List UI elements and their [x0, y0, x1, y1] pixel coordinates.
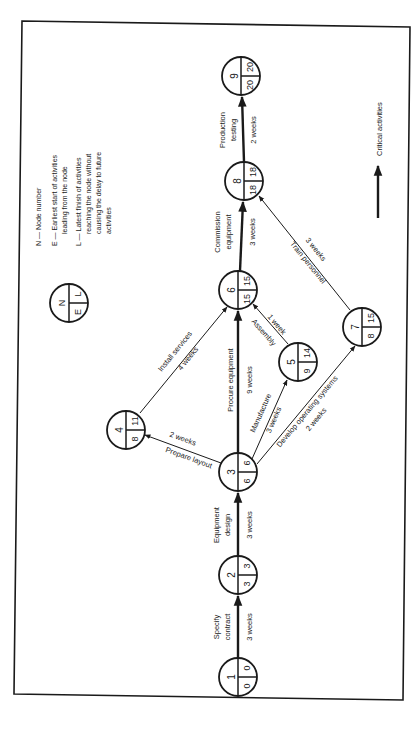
legend-line-6: causing the delay to future: [95, 152, 103, 234]
node-2-latest: 3: [242, 563, 252, 568]
node-9: 9 20 20: [222, 57, 260, 95]
figure-border: [14, 21, 410, 700]
label-production-testing-2: testing: [229, 119, 238, 141]
label-equipment-design-duration: 3 weeks: [245, 511, 254, 539]
label-procure-equipment-duration: 9 weeks: [245, 366, 254, 394]
node-9-earliest: 20: [245, 80, 255, 90]
node-1: 1 0 0: [219, 658, 257, 696]
node-8-latest: 18: [248, 167, 258, 177]
node-3-number: 3: [226, 469, 237, 475]
node-8-earliest: 18: [248, 185, 258, 195]
node-4-earliest: 8: [130, 436, 140, 441]
node-2-earliest: 3: [242, 581, 252, 586]
legend-symbol-e: E: [73, 309, 83, 315]
label-commission-equipment-1: Commission: [213, 211, 222, 252]
legend-line-2: E — Earliest start of activities: [51, 154, 58, 246]
node-9-latest: 20: [245, 62, 255, 72]
node-1-latest: 0: [242, 665, 252, 670]
node-7: 7 8 15: [343, 308, 381, 346]
node-3: 3 6 6: [219, 453, 257, 491]
legend-critical-label: Critical activities: [375, 102, 384, 156]
node-6-latest: 15: [242, 276, 252, 286]
node-7-latest: 15: [366, 313, 376, 323]
node-2: 2 3 3: [219, 556, 257, 594]
label-specify-contract-2: contract: [223, 613, 232, 641]
node-5-latest: 14: [302, 348, 312, 358]
label-commission-equipment-duration: 3 weeks: [248, 218, 257, 246]
legend-text: N — Node number E — Earliest start of ac…: [35, 152, 112, 246]
node-3-earliest: 6: [242, 478, 252, 483]
node-9-number: 9: [229, 73, 240, 79]
node-7-number: 7: [350, 324, 361, 330]
node-6-number: 6: [226, 287, 237, 293]
node-6-earliest: 15: [242, 294, 252, 304]
node-5-earliest: 9: [302, 368, 312, 373]
legend-node-symbol: N E L: [50, 284, 88, 322]
edge-8-9: [242, 97, 244, 162]
node-2-number: 2: [226, 572, 237, 578]
label-equipment-design-2: design: [223, 514, 232, 536]
label-procure-equipment: Procure equipment: [226, 347, 235, 411]
label-production-testing-duration: 2 weeks: [249, 116, 258, 144]
node-1-number: 1: [226, 674, 237, 680]
label-specify-contract-duration: 3 weeks: [245, 613, 254, 641]
critical-path-network-diagram: 1 0 0 2 3 3 3 6 6 4 8 11 5 9 14 6: [0, 0, 417, 730]
node-4-latest: 11: [130, 416, 140, 425]
legend-line-1: N — Node number: [35, 187, 42, 246]
node-4: 4 8 11: [107, 411, 145, 449]
node-6: 6 15 15: [219, 271, 257, 309]
legend-line-4: L — Latest finish of activities: [75, 157, 82, 246]
label-production-testing-1: Production: [218, 112, 227, 148]
label-equipment-design-1: Equipment: [212, 506, 221, 543]
edge-6-8: [240, 202, 243, 271]
label-specify-contract-1: Specify: [212, 614, 221, 639]
node-8: 8 18 18: [225, 162, 263, 200]
legend-symbol-l: L: [73, 291, 83, 296]
legend-line-7: activities: [105, 207, 112, 234]
label-commission-equipment-2: equipment: [224, 214, 233, 250]
node-7-earliest: 8: [366, 333, 376, 338]
node-5-number: 5: [286, 359, 297, 365]
node-8-number: 8: [232, 178, 243, 184]
legend-line-5: reaching the node without: [85, 154, 93, 234]
legend-line-3: leading from the node: [61, 166, 69, 234]
node-4-number: 4: [114, 427, 125, 433]
legend-symbol-n: N: [57, 300, 67, 307]
node-3-latest: 6: [242, 460, 252, 465]
node-1-earliest: 0: [242, 683, 252, 688]
node-5: 5 9 14: [279, 343, 317, 381]
